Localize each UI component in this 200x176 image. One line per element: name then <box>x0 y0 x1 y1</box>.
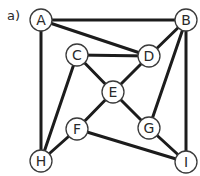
node-f: F <box>66 118 88 140</box>
graph-diagram: a) ABCDEFGHI <box>0 0 200 176</box>
node-i: I <box>175 151 197 173</box>
node-d: D <box>138 45 160 67</box>
node-a: A <box>30 9 52 31</box>
node-e: E <box>102 81 124 103</box>
part-label: a) <box>7 8 20 23</box>
node-label: E <box>109 84 118 100</box>
graph-canvas: ABCDEFGHI <box>0 0 200 176</box>
node-h: H <box>30 150 52 172</box>
node-label: G <box>144 120 155 136</box>
node-g: G <box>138 117 160 139</box>
node-label: F <box>73 121 81 137</box>
edge-a-d <box>41 20 149 56</box>
node-label: C <box>72 47 82 63</box>
node-label: B <box>181 12 191 28</box>
node-label: A <box>36 12 46 28</box>
node-label: H <box>36 153 47 169</box>
node-label: I <box>184 154 188 170</box>
node-b: B <box>175 9 197 31</box>
node-label: D <box>144 48 155 64</box>
node-c: C <box>66 44 88 66</box>
